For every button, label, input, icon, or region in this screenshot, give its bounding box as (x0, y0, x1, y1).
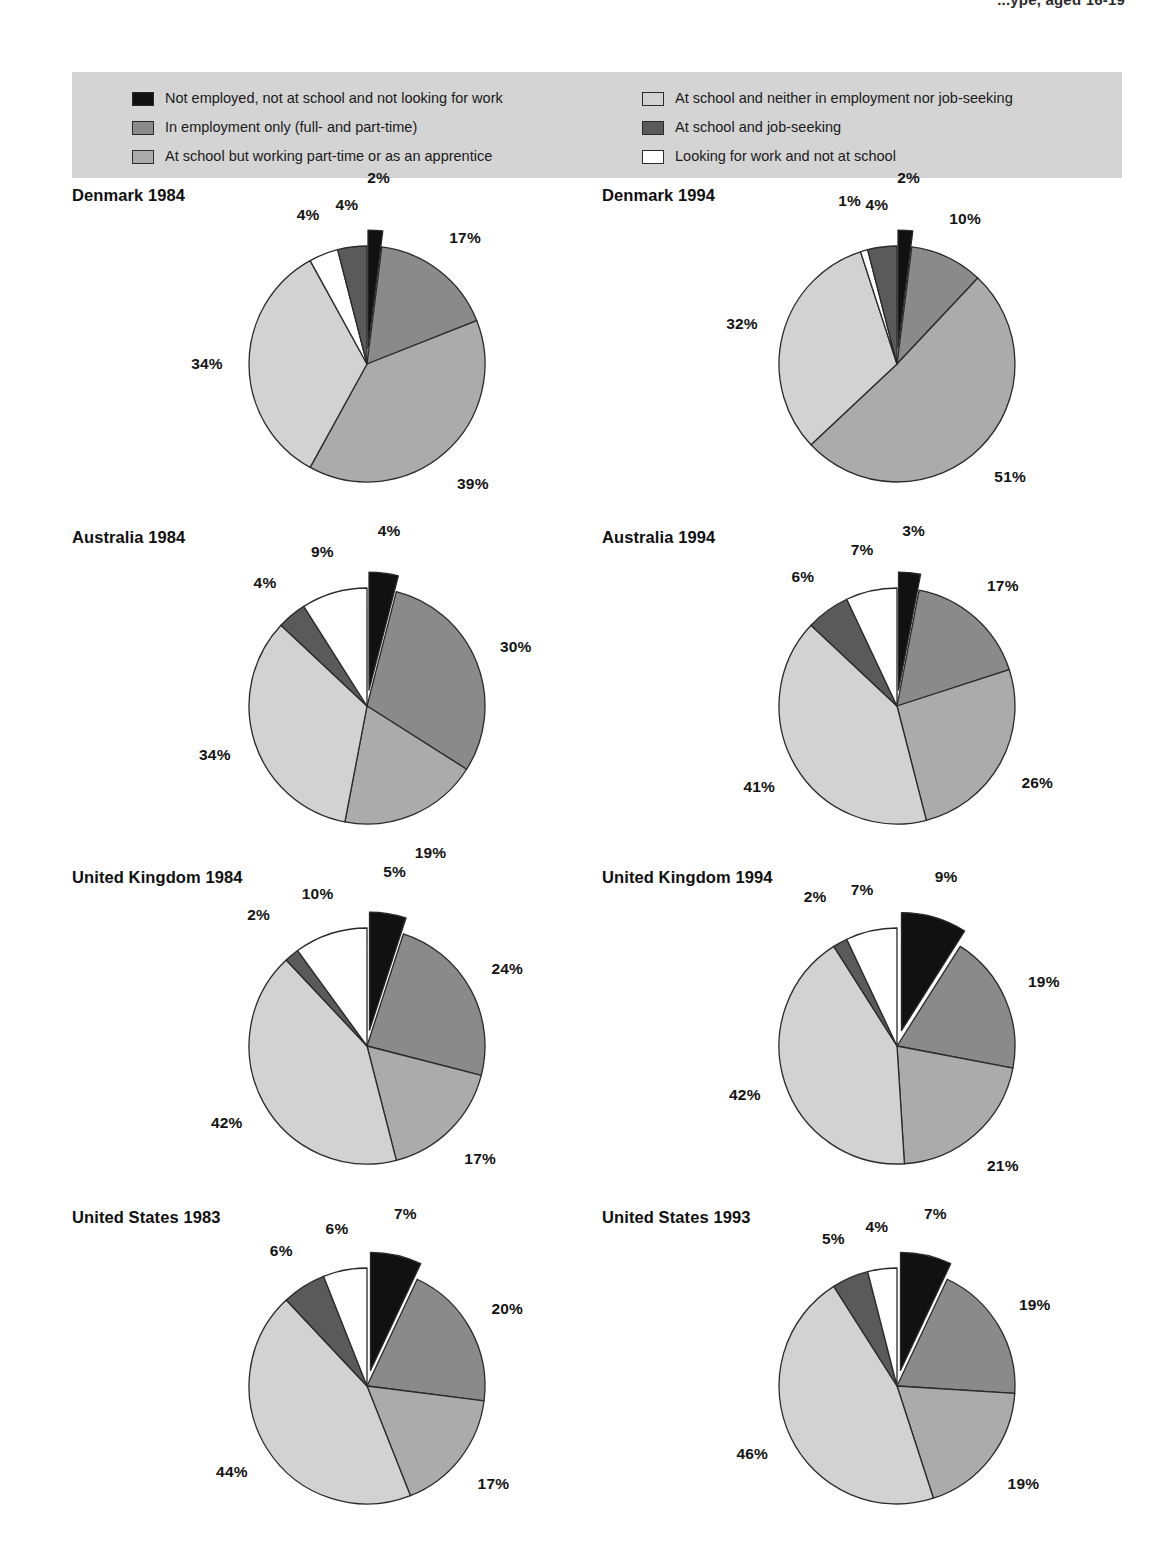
legend-item-label: At school but working part-time or as an… (165, 149, 492, 164)
pie-slice-label: 7% (851, 881, 874, 899)
pie-slice-label: 46% (736, 1445, 768, 1463)
legend-item-school_job_seeking: At school and job-seeking (642, 113, 1013, 142)
legend-item-school_part_time_work: At school but working part-time or as an… (132, 142, 503, 171)
pie-slice-label: 44% (216, 1463, 248, 1481)
pie-panel: Australia 19943%17%26%41%6%7% (602, 528, 1132, 868)
pie-slice-label: 6% (326, 1220, 349, 1238)
pie-chart: 7%20%17%44%6%6% (207, 1216, 527, 1536)
legend-item-label: At school and job-seeking (675, 120, 841, 135)
legend-item-label: At school and neither in employment nor … (675, 91, 1013, 106)
pie-panel-title: Denmark 1994 (602, 186, 715, 205)
pie-panel: Denmark 19842%17%39%34%4%4% (72, 186, 602, 526)
legend-item-looking_not_school: Looking for work and not at school (642, 142, 1013, 171)
pie-slice-label: 9% (311, 543, 334, 561)
legend-swatch-icon-employment_only (132, 121, 154, 135)
pie-slice-label: 34% (199, 746, 231, 764)
pie-slice-label: 7% (851, 541, 874, 559)
pie-slice-label: 4% (254, 574, 277, 592)
pie-slice-label: 4% (866, 196, 889, 214)
pie-slice-label: 4% (297, 206, 320, 224)
legend-swatch-icon-looking_not_school (642, 150, 664, 164)
pie-slice-label: 19% (1028, 973, 1060, 991)
pie-slice-label: 30% (500, 638, 532, 656)
pie-slice-label: 6% (270, 1242, 293, 1260)
legend-swatch-icon-school_part_time_work (132, 150, 154, 164)
pie-slice-label: 51% (994, 468, 1026, 486)
pie-chart: 7%19%19%46%5%4% (737, 1216, 1057, 1536)
pie-slice-label: 19% (1019, 1296, 1051, 1314)
pie-slice-label: 17% (478, 1475, 510, 1493)
legend-item-label: In employment only (full- and part-time) (165, 120, 417, 135)
pie-slice-label: 10% (302, 885, 334, 903)
legend-swatch-icon-school_only (642, 92, 664, 106)
pie-panel: United Kingdom 19845%24%17%42%2%10% (72, 868, 602, 1208)
running-header: ...ype, aged 16-19 (997, 0, 1125, 8)
pie-slice-label: 6% (792, 568, 815, 586)
pie-slice-label: 17% (449, 229, 481, 247)
pie-slice-label: 4% (378, 522, 401, 540)
pie-chart: 9%19%21%42%2%7% (737, 876, 1057, 1196)
pie-slice-label: 7% (394, 1205, 417, 1223)
pie-panel: Denmark 19942%10%51%32%1%4% (602, 186, 1132, 526)
pie-slice-label: 4% (336, 196, 359, 214)
pie-slice-label: 41% (743, 778, 775, 796)
pie-panel: United States 19937%19%19%46%5%4% (602, 1208, 1132, 1548)
pie-panel: United States 19837%20%17%44%6%6% (72, 1208, 602, 1548)
pie-slice-label: 19% (1008, 1475, 1040, 1493)
pie-slice-label: 5% (822, 1230, 845, 1248)
pie-slice-label: 2% (247, 906, 270, 924)
pie-slice-label: 24% (491, 960, 523, 978)
pie-chart: 2%17%39%34%4%4% (207, 194, 527, 514)
legend-item-label: Looking for work and not at school (675, 149, 896, 164)
pie-chart: 5%24%17%42%2%10% (207, 876, 527, 1196)
pie-chart: 3%17%26%41%6%7% (737, 536, 1057, 856)
pie-slice-label: 42% (211, 1114, 243, 1132)
pie-slice-label: 17% (464, 1150, 496, 1168)
pie-slice-label: 42% (729, 1086, 761, 1104)
pie-slice-label: 5% (383, 863, 406, 881)
pie-slice-label: 7% (924, 1205, 947, 1223)
legend-swatch-icon-not_employed_not_school_not_looking (132, 92, 154, 106)
legend-swatch-icon-school_job_seeking (642, 121, 664, 135)
pie-chart: 2%10%51%32%1%4% (737, 194, 1057, 514)
pie-slice-label: 10% (949, 210, 981, 228)
pie-panel-title: Australia 1994 (602, 528, 715, 547)
legend-item-label: Not employed, not at school and not look… (165, 91, 503, 106)
pie-slice-label: 1% (838, 192, 861, 210)
legend-item-not_employed_not_school_not_looking: Not employed, not at school and not look… (132, 84, 503, 113)
pie-slice-label: 2% (367, 169, 390, 187)
pie-panel: United Kingdom 19949%19%21%42%2%7% (602, 868, 1132, 1208)
pie-slice-label: 4% (866, 1218, 889, 1236)
pie-slice-label: 20% (491, 1300, 523, 1318)
pie-slice-label: 2% (804, 888, 827, 906)
pie-slice-label: 26% (1021, 774, 1053, 792)
legend-item-school_only: At school and neither in employment nor … (642, 84, 1013, 113)
pie-slice-label: 32% (726, 315, 758, 333)
pie-panel-title: United States 1993 (602, 1208, 751, 1227)
legend: Not employed, not at school and not look… (72, 72, 1122, 178)
pie-chart: 4%30%19%34%4%9% (207, 536, 527, 856)
pie-slice-label: 2% (897, 169, 920, 187)
legend-column-left: Not employed, not at school and not look… (132, 84, 503, 171)
legend-item-employment_only: In employment only (full- and part-time) (132, 113, 503, 142)
pie-slice-label: 39% (457, 475, 489, 493)
pie-panel-title: United States 1983 (72, 1208, 221, 1227)
pie-panel-title: Australia 1984 (72, 528, 185, 547)
pie-slice-label: 3% (902, 522, 925, 540)
pie-slice-label: 17% (987, 577, 1019, 595)
pie-slice-label: 21% (987, 1157, 1019, 1175)
pie-panel-title: Denmark 1984 (72, 186, 185, 205)
pie-slice-label: 9% (935, 868, 958, 886)
pie-slice-label: 34% (191, 355, 223, 373)
legend-column-right: At school and neither in employment nor … (642, 84, 1013, 171)
pie-slice-label: 19% (415, 844, 447, 862)
pie-panel: Australia 19844%30%19%34%4%9% (72, 528, 602, 868)
